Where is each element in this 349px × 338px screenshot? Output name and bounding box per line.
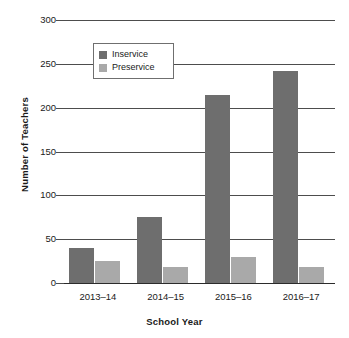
gridline-0 (64, 283, 335, 284)
y-tick-label-300: 300 (22, 15, 56, 25)
bar-preservice-2015-16[interactable] (231, 257, 256, 283)
y-tick-label-150: 150 (22, 147, 56, 157)
y-tick-label-200: 200 (22, 103, 56, 113)
bar-preservice-2016-17[interactable] (299, 267, 324, 283)
y-tick-100 (56, 195, 64, 196)
bar-preservice-2014-15[interactable] (163, 267, 188, 283)
y-tick-label-0: 0 (22, 278, 56, 288)
x-tick-label-2015-16: 2015–16 (200, 291, 268, 302)
bar-preservice-2013-14[interactable] (95, 261, 120, 283)
gridline-300 (64, 20, 335, 21)
bar-inservice-2014-15[interactable] (137, 217, 162, 283)
bar-inservice-2015-16[interactable] (205, 95, 230, 283)
x-tick-label-2014-15: 2014–15 (132, 291, 200, 302)
x-tick-label-2013-14: 2013–14 (64, 291, 132, 302)
bar-inservice-2013-14[interactable] (69, 248, 94, 283)
preservice-swatch-icon (99, 64, 107, 72)
bar-chart: Number of Teachers 050100150200250300 20… (0, 0, 349, 338)
legend-label-preservice: Preservice (112, 63, 155, 72)
legend-item-inservice[interactable]: Inservice (99, 48, 168, 61)
x-axis-title: School Year (0, 316, 349, 327)
y-tick-label-50: 50 (22, 234, 56, 244)
y-tick-300 (56, 20, 64, 21)
y-tick-200 (56, 108, 64, 109)
legend-item-preservice[interactable]: Preservice (99, 61, 168, 74)
y-tick-150 (56, 152, 64, 153)
inservice-swatch-icon (99, 51, 107, 59)
y-tick-label-100: 100 (22, 190, 56, 200)
legend-label-inservice: Inservice (112, 50, 148, 59)
x-tick-label-2016-17: 2016–17 (267, 291, 335, 302)
y-tick-label-250: 250 (22, 59, 56, 69)
y-tick-50 (56, 239, 64, 240)
y-tick-0 (56, 283, 64, 284)
chart-legend: Inservice Preservice (93, 43, 174, 79)
bar-inservice-2016-17[interactable] (273, 71, 298, 283)
y-tick-250 (56, 64, 64, 65)
